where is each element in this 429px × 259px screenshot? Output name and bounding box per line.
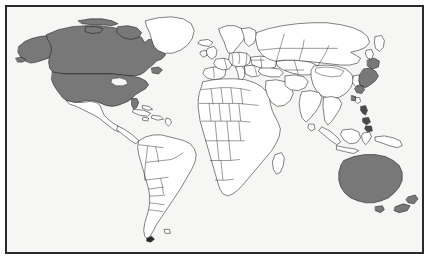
region-japan-ryukyu bbox=[352, 96, 356, 101]
page-title: World map with highlighted countries bbox=[0, 21, 1, 22]
screenshot-root: World map with highlighted countries bbox=[0, 0, 429, 259]
map-frame bbox=[5, 5, 424, 254]
region-russia bbox=[256, 23, 370, 65]
region-victoria-island bbox=[85, 27, 103, 34]
region-japan-hokkaido bbox=[368, 58, 380, 69]
world-map bbox=[7, 7, 422, 252]
region-jamaica bbox=[143, 117, 149, 121]
region-falklands bbox=[164, 229, 170, 233]
